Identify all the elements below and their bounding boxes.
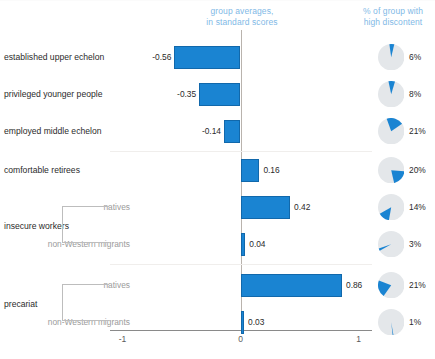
pie-percent-label: 20% bbox=[409, 165, 435, 175]
pie-percent-label: 21% bbox=[409, 126, 435, 136]
x-axis-tick: 0 bbox=[226, 334, 256, 344]
bracket-precariat bbox=[62, 284, 109, 321]
bar bbox=[241, 311, 245, 334]
bar-value-label: -0.14 bbox=[199, 120, 221, 143]
pie-chart bbox=[378, 81, 405, 108]
bar bbox=[241, 274, 342, 297]
bar-value-label: 0.04 bbox=[249, 233, 265, 256]
pie-percent-label: 6% bbox=[409, 52, 435, 62]
pie-chart bbox=[378, 157, 405, 184]
x-axis-tick: 1 bbox=[344, 334, 374, 344]
bar-value-label: -0.56 bbox=[149, 46, 171, 69]
bar-value-label: 0.03 bbox=[248, 311, 264, 334]
group-label-insecure-workers: insecure workers bbox=[4, 221, 69, 231]
pie-percent-label: 8% bbox=[409, 89, 435, 99]
pie-percent-label: 3% bbox=[409, 239, 435, 249]
pie-percent-label: 1% bbox=[409, 317, 435, 327]
pie-chart bbox=[378, 118, 405, 145]
bar-value-label: -0.35 bbox=[174, 83, 196, 106]
bar-value-label: 0.16 bbox=[263, 159, 279, 182]
pie-chart bbox=[378, 309, 405, 336]
bar bbox=[199, 83, 240, 106]
bar-value-label: 0.42 bbox=[294, 196, 310, 219]
pie-chart bbox=[378, 194, 405, 221]
column-header-group-averages: group averages, in standard scores bbox=[178, 6, 306, 27]
bar bbox=[224, 120, 241, 143]
bar bbox=[241, 233, 246, 256]
category-label-established-upper-echelon: established upper echelon bbox=[4, 52, 130, 62]
plot-area: -101 -0.56-0.35-0.140.160.420.040.860.03 bbox=[123, 30, 359, 330]
bar bbox=[174, 46, 240, 69]
x-axis-tick: -1 bbox=[108, 334, 138, 344]
pie-chart bbox=[378, 231, 405, 258]
bar bbox=[241, 196, 291, 219]
group-label-precariat: precariat bbox=[4, 299, 37, 309]
row-separator bbox=[110, 264, 372, 265]
chart-figure: group averages, in standard scores % of … bbox=[0, 0, 435, 359]
top-divider bbox=[0, 0, 435, 1]
bar bbox=[241, 159, 260, 182]
category-label-privileged-younger-people: privileged younger people bbox=[4, 89, 130, 99]
row-separator bbox=[110, 151, 372, 152]
bracket-insecure-workers bbox=[62, 206, 109, 243]
pie-chart bbox=[378, 272, 405, 299]
column-header-discontent: % of group with high discontent bbox=[352, 6, 434, 27]
pie-percent-label: 14% bbox=[409, 202, 435, 212]
pie-percent-label: 21% bbox=[409, 280, 435, 290]
category-label-employed-middle-echelon: employed middle echelon bbox=[4, 126, 130, 136]
category-label-comfortable-retirees: comfortable retirees bbox=[4, 165, 130, 175]
pie-chart bbox=[378, 44, 405, 71]
bar-value-label: 0.86 bbox=[346, 274, 362, 297]
